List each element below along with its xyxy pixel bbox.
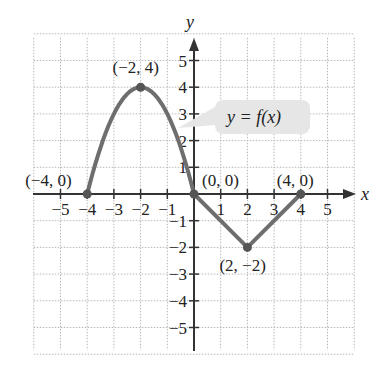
x-tick-label: 2	[243, 200, 252, 219]
key-point	[83, 190, 92, 199]
x-tick-label: −3	[105, 200, 123, 219]
graph: x y −5−4−3−2−112345 54321−1−2−3−4−5 y = …	[0, 0, 390, 372]
y-tick-label: −5	[169, 319, 187, 338]
y-axis-label: y	[184, 12, 194, 32]
x-tick-label: 5	[323, 200, 332, 219]
y-tick-label: −2	[169, 238, 187, 257]
x-tick-label: −2	[132, 200, 150, 219]
key-point	[296, 190, 305, 199]
x-tick-label: 4	[297, 200, 306, 219]
y-tick-label: 3	[179, 105, 188, 124]
y-tick-label: −3	[169, 265, 187, 284]
point-label: (0, 0)	[202, 171, 239, 190]
point-label: (−2, 4)	[113, 58, 159, 77]
point-label: (−4, 0)	[25, 171, 71, 190]
callout-text: y = f(x)	[225, 107, 281, 128]
key-point	[136, 83, 145, 92]
x-tick-label: −4	[78, 200, 97, 219]
y-tick-label: −1	[169, 212, 187, 231]
key-point	[243, 243, 252, 252]
x-axis-label: x	[360, 184, 369, 204]
x-tick-label: −5	[51, 200, 69, 219]
y-tick-label: −4	[169, 292, 188, 311]
y-axis-arrow-icon	[189, 38, 199, 51]
y-tick-label: 4	[179, 78, 188, 97]
point-label: (4, 0)	[277, 171, 314, 190]
y-tick-label: 5	[179, 52, 188, 71]
point-label: (2, −2)	[219, 256, 265, 275]
key-point	[190, 190, 199, 199]
function-callout: y = f(x)	[178, 100, 310, 134]
